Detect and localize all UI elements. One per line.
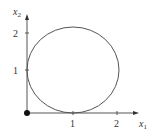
y-tick-label-2: 2 [13,28,18,39]
y-tick-label-1: 1 [13,65,18,76]
x-tick-label-1: 1 [70,118,75,129]
x-axis-label: x1 [138,118,147,131]
y-axis-arrow-icon [25,14,29,20]
x-axis-arrow-icon [133,111,139,115]
x-tick-label-2: 2 [114,118,119,129]
diagram-canvas: 1 2 1 2 x2 x1 [0,0,152,139]
y-axis-label: x2 [12,6,21,19]
origin-point [24,110,30,116]
circle [27,27,119,113]
